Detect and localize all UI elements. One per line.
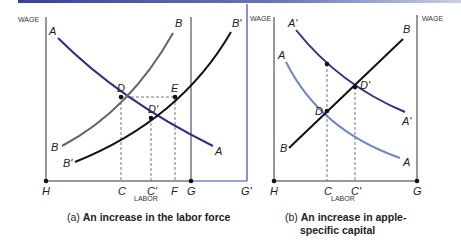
panel-a-tick-c: C [118,185,126,197]
panel-b-point-dprime [353,85,358,90]
panel-a-point-d [119,95,124,100]
panel-b-label-a-top: A [277,49,285,61]
panel-a-label-a-top: A [48,25,56,37]
panel-a-wage-label: WAGE [18,16,39,23]
panel-a-label-a-bottom: A [214,145,222,157]
panel-b-tick-g: G [413,185,422,197]
panel-a-label-bprime-top: B' [232,17,242,29]
panel-a-point-e [173,95,178,100]
panel-b-label-aprime-top: A' [287,17,298,29]
panel-a-caption-prefix: (a) [67,211,80,223]
labor-market-diagrams: WAGE LABOR A A B B B' B' D E D' H C C' F… [0,0,461,244]
panel-b-tick-h: H [270,185,278,197]
panel-a-tick-f: F [171,185,179,197]
panel-a-label-d: D [117,82,125,94]
panel-a-caption: (a) An increase in the labor force [67,211,230,224]
panel-b-label-a-bottom: A [402,156,410,168]
panel-b-tick-c: C [324,185,332,197]
panel-a-point-dprime [149,116,154,121]
panel-b-wage-label-right: WAGE [422,15,443,22]
panel-a-caption-text: An increase in the labor force [83,211,231,223]
panel-b-caption-line1: An increase in apple- [301,211,407,223]
panel-a-label-b-bottom: B [51,141,58,153]
panel-b-wage-label-left: WAGE [250,15,271,22]
panel-a-label-dprime: D' [148,103,159,115]
panel-b-demand-curve-aprime [296,30,405,112]
panel-a-point-h [44,179,49,184]
panel-b-label-aprime-bottom: A' [401,115,412,127]
panel-a: WAGE LABOR A A B B B' B' D E D' H C C' F… [18,4,253,202]
panel-b-point-d [325,109,330,114]
panel-b-point-h [272,179,277,184]
panel-a-label-e: E [171,82,179,94]
panel-b-caption-line2: specific capital [300,224,375,236]
panel-a-demand-curve-a [58,38,213,146]
panel-a-label-b-top: B [175,17,182,29]
panel-a-point-g [189,179,194,184]
panel-b: WAGE WAGE LABOR A' A' A A B B D D' H C C… [250,15,443,202]
panel-a-tick-gprime: G' [241,185,253,197]
panel-a-label-bprime-bottom: B' [63,157,73,169]
panel-a-tick-h: H [42,185,50,197]
panel-a-tick-cprime: C' [147,185,158,197]
panel-b-point-upper [325,62,330,67]
panel-b-point-g [415,179,420,184]
panel-b-tick-cprime: C' [351,185,362,197]
panel-b-caption: (b) An increase in apple- specific capit… [285,211,406,237]
panel-b-label-dprime: D' [360,79,371,91]
panel-a-tick-g: G [187,185,196,197]
panel-b-caption-prefix: (b) [285,211,298,223]
panel-b-label-d: D [315,105,323,117]
panel-b-label-b-bottom: B [280,142,287,154]
panel-b-label-b-top: B [403,23,410,35]
